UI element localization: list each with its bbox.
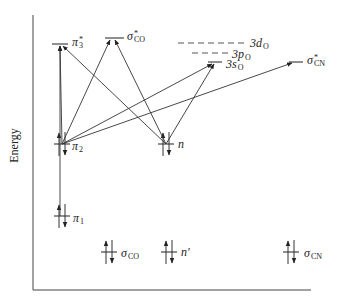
label-3s_o: 3s O <box>226 58 243 72</box>
label-pi1: π 1 <box>73 212 84 226</box>
level-n_prime <box>161 240 177 264</box>
label-pi2: π 2 <box>72 140 83 154</box>
level-pi1 <box>54 204 70 228</box>
label-sigma_cn: σ CN <box>304 247 322 261</box>
label-3d_o: 3d O <box>250 37 269 51</box>
level-sigma_cn <box>283 240 299 264</box>
transition-arrows <box>60 40 292 216</box>
transition-n-to-pi3_star <box>63 46 166 144</box>
label-sigma_co_star: σ*CO <box>127 30 145 44</box>
label-n: n <box>178 138 184 150</box>
transition-pi2-to-sigma_cn_star <box>62 63 292 144</box>
transition-pi2-to-sigma_co_star <box>62 40 110 144</box>
label-pi3_star: π*3 <box>72 36 83 50</box>
energy-axis-label: Energy <box>7 126 22 166</box>
mo-energy-diagram <box>0 0 344 304</box>
level-sigma_co <box>101 240 117 264</box>
label-sigma_cn_star: σ*CN <box>307 54 325 68</box>
label-sigma_co: σ CO <box>121 247 139 261</box>
transition-n-to-sigma_co_star <box>115 40 166 144</box>
label-n_prime: n′ <box>181 246 190 258</box>
